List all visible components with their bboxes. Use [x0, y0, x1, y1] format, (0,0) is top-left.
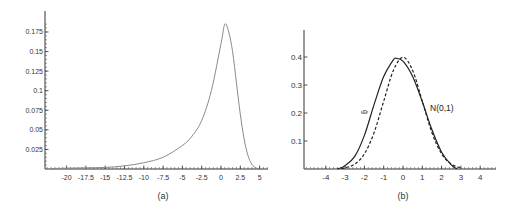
x-tick-label: -5 — [179, 174, 185, 181]
y-tick-label: 0.025 — [25, 146, 43, 153]
series-line-solid — [337, 58, 457, 169]
x-tick-label: 2 — [439, 173, 444, 182]
y-tick-label: 0.3 — [291, 81, 303, 90]
series-a — [51, 24, 259, 169]
x-tick-label: -10 — [139, 174, 149, 181]
y-tick-label: 0.15 — [29, 48, 43, 55]
y-tick-label: 0.4 — [291, 53, 303, 62]
x-tick-label: -2.5 — [196, 174, 208, 181]
x-tick-label: -1 — [380, 173, 388, 182]
x-tick-label: 1 — [420, 173, 425, 182]
estimate-label: ĝ — [361, 110, 369, 114]
caption-a: (a) — [158, 191, 169, 201]
x-tick-label: -3 — [342, 173, 350, 182]
x-tick-label: -20 — [62, 174, 72, 181]
axes-a — [45, 11, 268, 169]
x-tick-label: 5 — [258, 174, 262, 181]
y-tick-label: 0.125 — [25, 68, 43, 75]
y-tick-label: 0.1 — [291, 137, 303, 146]
y-tick-label: 0.05 — [29, 126, 43, 133]
x-tick-label: -2 — [361, 173, 369, 182]
x-tick-label: 0 — [219, 174, 223, 181]
x-tick-label: -12.5 — [117, 174, 133, 181]
y-tick-label: 0.1 — [33, 87, 43, 94]
x-tick-label: -7.5 — [157, 174, 169, 181]
caption-b: (b) — [398, 191, 409, 201]
y-tick-label: 0.2 — [291, 109, 303, 118]
x-tick-label: 4 — [478, 173, 483, 182]
ticks-a: -20-17.5-15-12.5-10-7.5-5-2.502.550.0250… — [25, 24, 267, 181]
series-b — [337, 57, 461, 169]
figure: -20-17.5-15-12.5-10-7.5-5-2.502.550.0250… — [0, 0, 522, 211]
chart-panel-b: -4-3-2-1012340.10.20.30.4 ĝ N(0,1) (b) — [291, 30, 496, 201]
x-tick-label: 3 — [459, 173, 464, 182]
x-tick-label: -4 — [322, 173, 330, 182]
x-tick-label: -15 — [100, 174, 110, 181]
chart-panel-a: -20-17.5-15-12.5-10-7.5-5-2.502.550.0250… — [25, 11, 268, 201]
axes-b — [304, 30, 496, 169]
y-tick-label: 0.175 — [25, 28, 43, 35]
y-tick-label: 0.075 — [25, 107, 43, 114]
x-tick-label: 0 — [401, 173, 406, 182]
normal-label: N(0,1) — [430, 103, 454, 113]
x-tick-label: 2.5 — [235, 174, 245, 181]
figure-canvas: -20-17.5-15-12.5-10-7.5-5-2.502.550.0250… — [0, 0, 522, 211]
x-tick-label: -17.5 — [78, 174, 94, 181]
series-line-solid — [51, 24, 259, 169]
